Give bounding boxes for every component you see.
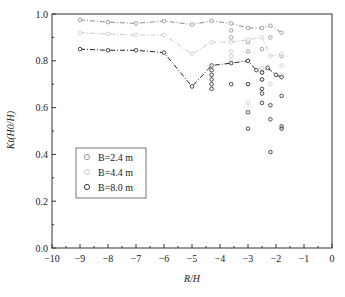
chart-canvas: −10−9−8−7−6−5−4−3−2−10 0.00.20.40.60.81.…	[0, 0, 345, 297]
y-tick-label: 0.2	[36, 196, 49, 207]
x-tick-label: −9	[75, 253, 86, 264]
x-tick-label: −6	[159, 253, 170, 264]
y-tick-label: 0.0	[36, 243, 49, 254]
x-tick-label: −1	[299, 253, 310, 264]
x-tick-label: −10	[44, 253, 60, 264]
legend: B=2.4 m B=4.4 m B=8.0 m	[76, 148, 146, 198]
x-tick-label: −5	[187, 253, 198, 264]
legend-label: B=4.4 m	[98, 167, 133, 178]
x-tick-label: 0	[330, 253, 335, 264]
x-tick-label: −8	[103, 253, 114, 264]
x-tick-label: −7	[131, 253, 142, 264]
x-tick-label: −4	[215, 253, 226, 264]
y-tick-label: 0.8	[36, 55, 49, 66]
y-tick-label: 0.6	[36, 102, 49, 113]
legend-label: B=2.4 m	[98, 152, 133, 163]
x-tick-label: −3	[243, 253, 254, 264]
legend-label: B=8.0 m	[98, 182, 133, 193]
plot-area	[52, 14, 332, 248]
y-tick-label: 1.0	[36, 9, 49, 20]
x-axis-label: R/H	[183, 273, 201, 284]
y-axis-label: Kt(H0/H)	[5, 110, 17, 150]
y-tick-label: 0.4	[36, 149, 49, 160]
x-tick-label: −2	[271, 253, 282, 264]
